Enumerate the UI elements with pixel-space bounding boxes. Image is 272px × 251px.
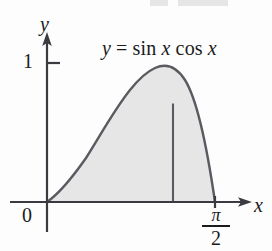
equation-cos-argument: x (208, 37, 217, 59)
figure-area-under-sin-cos: y 1 0 x π 2 y = sin x cos x (0, 0, 272, 251)
y-axis-label: y (40, 14, 49, 34)
equation-sin-function: sin (133, 37, 157, 59)
y-axis-tick-label-1: 1 (23, 51, 33, 71)
equation-sin-argument: x (162, 37, 171, 59)
pi-over-2-denominator: 2 (200, 228, 232, 249)
equation-lhs: y (102, 37, 111, 59)
x-axis-label: x (254, 195, 263, 215)
origin-label: 0 (22, 205, 32, 225)
equation-cos-function: cos (176, 37, 203, 59)
curve-equation-label: y = sin x cos x (102, 38, 217, 58)
shaded-region (47, 66, 215, 202)
pi-over-2-numerator: π (200, 206, 232, 225)
x-axis-tick-label-pi-over-2: π 2 (200, 206, 232, 249)
equation-equals-sign: = (116, 37, 127, 59)
